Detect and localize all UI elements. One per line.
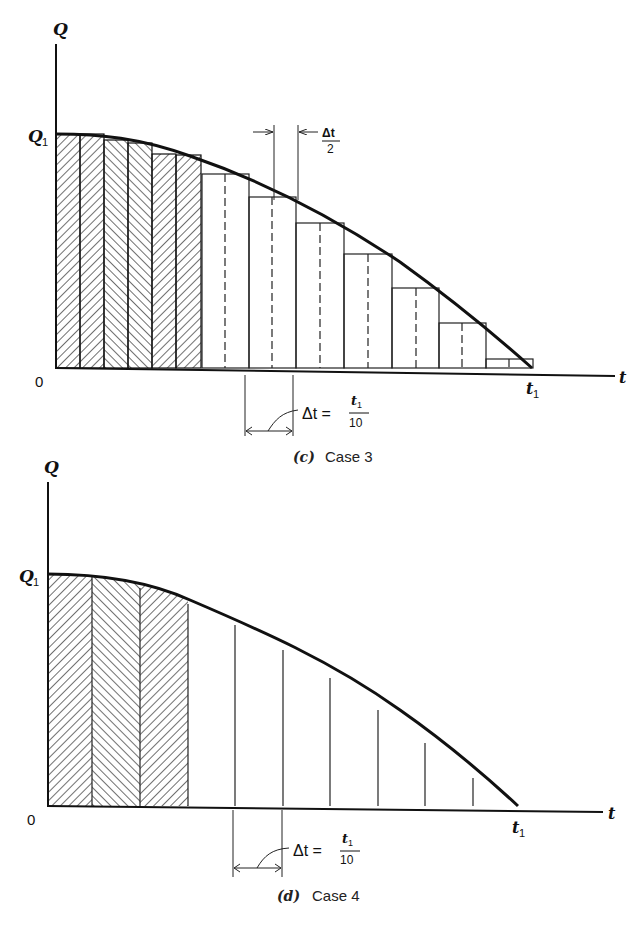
caption-case-4: (d) Case 4: [277, 887, 360, 904]
svg-text:Q: Q: [19, 566, 34, 586]
svg-text:Δt: Δt: [322, 126, 335, 140]
origin-label: 0: [27, 811, 35, 828]
x-axis: [55, 368, 615, 376]
svg-text:Case 4: Case 4: [312, 887, 360, 904]
caption-case-3: (c) Case 3: [293, 448, 373, 465]
svg-text:(d): (d): [277, 888, 300, 904]
svg-text:Q: Q: [28, 126, 43, 146]
q1-tick-label: Q 1: [19, 566, 39, 588]
x-axis: [47, 806, 603, 812]
svg-text:1: 1: [357, 400, 362, 410]
hatched-region: [47, 560, 188, 810]
hatched-region: [56, 134, 201, 368]
svg-text:1: 1: [42, 136, 48, 148]
svg-text:(c): (c): [293, 449, 315, 465]
svg-text:1: 1: [519, 827, 525, 839]
svg-text:1: 1: [33, 576, 39, 588]
svg-text:1: 1: [348, 838, 353, 848]
svg-text:10: 10: [349, 416, 363, 430]
svg-text:Δt =: Δt =: [302, 405, 331, 422]
svg-text:10: 10: [340, 853, 354, 867]
diagram-canvas: Q t 0 Q 1 t 1 Δt 2: [0, 0, 640, 930]
x-axis-label: t: [619, 368, 627, 387]
x-axis-label: t: [608, 804, 616, 823]
figure-case-4: Q t 0 Q 1 t 1 Δt = t 1 10 (d) Case 4: [19, 457, 616, 904]
midlines: [225, 174, 509, 368]
q1-tick-label: Q 1: [28, 126, 48, 148]
half-dt-label: Δt 2: [322, 126, 340, 156]
svg-text:1: 1: [533, 388, 539, 400]
dt-label: Δt = t 1 10: [302, 393, 369, 430]
y-axis-label: Q: [53, 19, 68, 39]
dt-label: Δt = t 1 10: [293, 831, 360, 867]
t1-tick-label: t 1: [512, 818, 525, 839]
svg-text:Δt =: Δt =: [293, 842, 322, 859]
svg-text:2: 2: [327, 142, 334, 156]
figure-case-3: Q t 0 Q 1 t 1 Δt 2: [28, 19, 627, 465]
y-axis-label: Q: [44, 457, 59, 477]
origin-label: 0: [35, 373, 43, 390]
t1-tick-label: t 1: [526, 379, 539, 400]
dt-dimension: [245, 375, 298, 436]
dt-dimension: [233, 810, 289, 877]
svg-text:Case 3: Case 3: [325, 448, 373, 465]
half-dt-dimension: [253, 125, 318, 200]
